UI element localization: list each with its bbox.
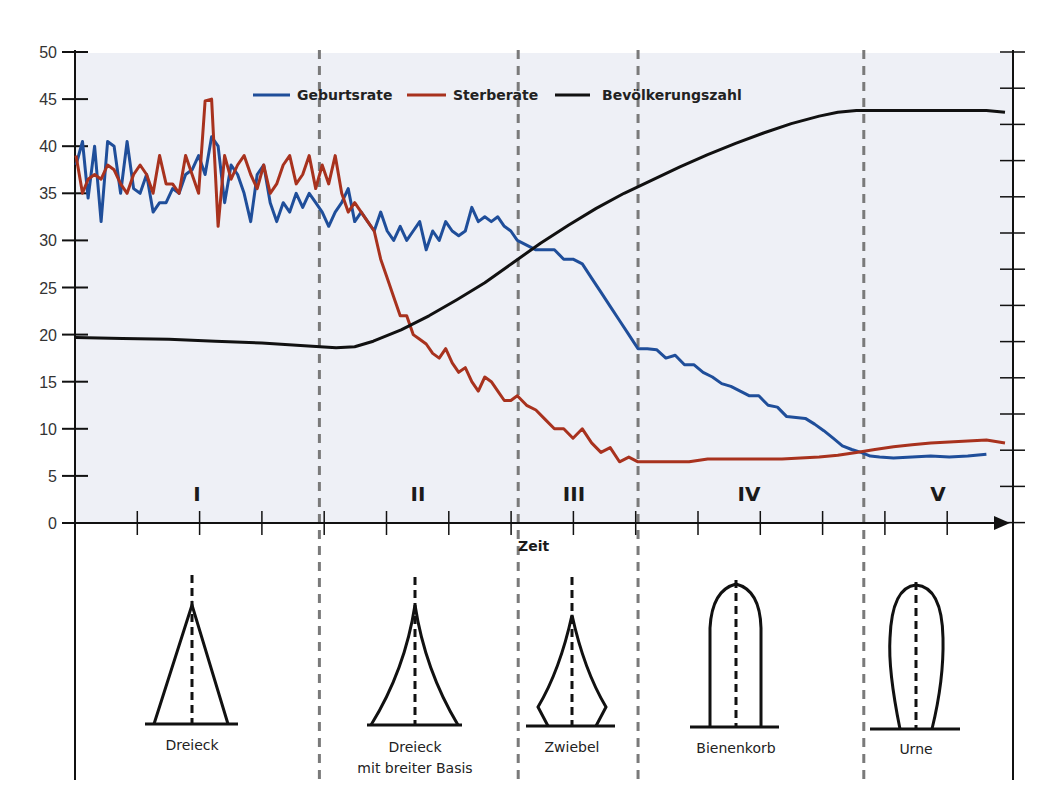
demographic-transition-chart: 05101520253035404550 Zeit I II III IV V … [0,0,1046,802]
y-tick-label: 40 [39,138,57,155]
phase-label-ii: II [411,482,426,506]
phase-label-iii: III [563,482,585,506]
pyramid-label-urne: Urne [899,741,932,757]
legend-label-birth-rate: Geburtsrate [297,87,392,103]
pyramid-label-bienenkorb: Bienenkorb [696,740,775,756]
legend-label-population: Bevölkerungszahl [602,87,742,103]
y-tick-label: 30 [39,232,57,249]
y-tick-label: 10 [39,421,57,438]
y-tick-label: 15 [39,374,57,391]
pyramid-bienenkorb: Bienenkorb [690,580,779,756]
y-tick-label: 0 [48,515,57,532]
pyramid-zwiebel: Zwiebel [526,577,615,755]
x-axis-label: Zeit [518,538,549,554]
y-tick-label: 5 [48,468,57,485]
phase-label-i: I [193,482,200,506]
y-tick-label: 50 [39,44,57,61]
pyramid-dreieck-breite-basis: Dreieck mit breiter Basis [357,577,472,776]
beehive-pyramid-icon [710,584,761,727]
pyramid-dreieck: Dreieck [145,575,238,753]
legend: Geburtsrate Sterberate Bevölkerungszahl [253,87,742,103]
legend-label-death-rate: Sterberate [453,87,538,103]
plot-area [76,53,1013,523]
pyramid-urne: Urne [870,582,960,757]
pyramid-label-zwiebel: Zwiebel [545,739,600,755]
pyramid-label-dreieck-line1: Dreieck [388,739,442,755]
phase-label-v: V [930,482,946,506]
y-tick-label: 45 [39,91,57,108]
y-tick-label: 25 [39,280,57,297]
pyramid-label-dreieck: Dreieck [165,737,219,753]
phase-label-iv: IV [738,482,761,506]
y-tick-label: 20 [39,327,57,344]
urn-pyramid-icon [890,585,943,729]
pyramid-label-dreieck-line2: mit breiter Basis [357,760,472,776]
y-tick-label: 35 [39,185,57,202]
